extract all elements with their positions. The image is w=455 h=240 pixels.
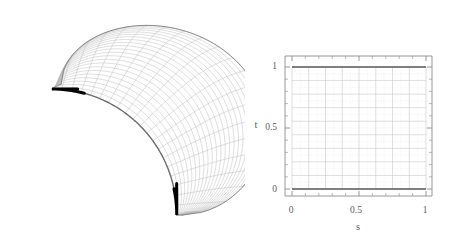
y-tick-label-2: 1 (272, 61, 277, 71)
tick-marks (285, 56, 432, 196)
y-tick-label-1: 0.5 (265, 122, 277, 132)
figure-container: 0 0.5 1 0 0.5 1 s t (0, 0, 455, 240)
axes-frame (285, 56, 432, 196)
x-tick-label-2: 1 (423, 205, 428, 215)
parameter-domain-panel: 0 0.5 1 0 0.5 1 s t (240, 0, 455, 240)
surface-svg (0, 0, 245, 240)
surface-mesh (52, 25, 245, 215)
x-axis-label: s (356, 221, 360, 232)
y-axis-label: t (255, 119, 258, 130)
x-tick-label-1: 0.5 (350, 205, 362, 215)
surface-panel (0, 0, 245, 240)
domain-svg: 0 0.5 1 0 0.5 1 s t (240, 0, 455, 240)
boundary-curve (52, 89, 177, 215)
y-tick-label-0: 0 (272, 184, 277, 194)
x-tick-label-0: 0 (289, 205, 294, 215)
